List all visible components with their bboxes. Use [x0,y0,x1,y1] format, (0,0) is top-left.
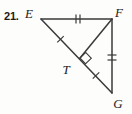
vertex-label-G: G [113,96,123,111]
vertex-label-T: T [62,62,70,77]
segment-FT [80,19,112,58]
segment-EG [41,19,112,93]
triangle-diagram: E F G T [0,0,132,114]
geometry-figure: 21. E F G [0,0,132,114]
vertex-label-E: E [24,6,33,21]
vertex-label-F: F [114,5,124,20]
